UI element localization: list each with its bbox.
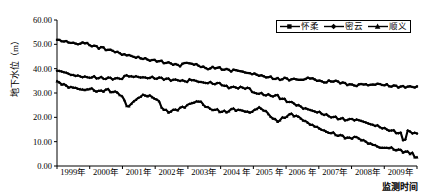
- marker-square: [228, 69, 230, 71]
- x-tick-label: 2002年: [159, 168, 185, 177]
- marker-square: [249, 72, 251, 74]
- marker-square: [195, 63, 197, 65]
- marker-square: [112, 50, 114, 52]
- marker-square: [376, 83, 378, 85]
- marker-square: [237, 70, 239, 72]
- marker-square: [397, 87, 399, 89]
- marker-square: [304, 78, 306, 80]
- marker-square: [61, 40, 63, 42]
- marker-square: [200, 66, 202, 68]
- marker-square: [193, 64, 195, 66]
- marker-square: [186, 62, 188, 64]
- marker-square: [337, 80, 339, 82]
- marker-square: [381, 84, 383, 86]
- marker-square: [177, 64, 179, 66]
- marker-square: [414, 86, 416, 88]
- marker-square: [126, 54, 128, 56]
- marker-square: [160, 60, 162, 62]
- legend-label: 密云: [345, 22, 363, 31]
- x-tick-label: 2004 年: [223, 168, 251, 177]
- marker-square: [72, 42, 74, 44]
- marker-square: [314, 78, 316, 80]
- marker-square: [277, 77, 279, 79]
- marker-square: [390, 86, 392, 88]
- marker-square: [105, 49, 107, 51]
- y-tick-label: 50.00: [16, 40, 52, 49]
- marker-square: [151, 59, 153, 61]
- legend-label: 怀柔: [301, 22, 319, 31]
- legend-label: 顺义: [389, 22, 407, 31]
- marker-square: [77, 43, 79, 45]
- marker-square: [232, 69, 234, 71]
- legend-marker-triangle-icon: [368, 22, 388, 31]
- marker-square: [251, 73, 253, 75]
- marker-square: [383, 84, 385, 86]
- marker-square: [356, 85, 358, 87]
- marker-square: [88, 44, 90, 46]
- marker-square: [393, 84, 395, 86]
- marker-square: [353, 84, 355, 86]
- marker-square: [79, 43, 81, 45]
- marker-square: [163, 62, 165, 64]
- y-tick-label: 40.00: [16, 65, 52, 74]
- marker-square: [116, 51, 118, 53]
- marker-square: [86, 42, 88, 44]
- legend-marker-square-icon: [280, 22, 300, 31]
- chart-legend: 怀柔密云顺义: [276, 20, 411, 33]
- marker-square: [302, 79, 304, 81]
- marker-square: [202, 66, 204, 68]
- marker-square: [65, 40, 67, 42]
- marker-square: [374, 84, 376, 86]
- marker-square: [297, 79, 299, 81]
- marker-square: [244, 71, 246, 73]
- marker-square: [311, 77, 313, 79]
- marker-square: [328, 79, 330, 81]
- marker-square: [191, 63, 193, 65]
- marker-square: [230, 70, 232, 72]
- marker-square: [179, 65, 181, 67]
- marker-square: [318, 80, 320, 82]
- marker-square: [367, 84, 369, 86]
- marker-square: [135, 57, 137, 59]
- marker-square: [181, 63, 183, 65]
- x-tick-label: 2008年: [355, 168, 381, 177]
- x-tick-label: 2003年: [191, 168, 217, 177]
- marker-square: [293, 78, 295, 80]
- marker-square: [316, 80, 318, 82]
- marker-square: [209, 67, 211, 69]
- x-axis-title: 监测时间: [382, 180, 418, 193]
- marker-square: [362, 83, 364, 85]
- marker-square: [158, 60, 160, 62]
- marker-square: [100, 46, 102, 48]
- marker-square: [369, 84, 371, 86]
- y-tick-label: 10.00: [16, 138, 52, 147]
- marker-square: [344, 82, 346, 84]
- marker-square: [349, 83, 351, 85]
- legend-item-密云[interactable]: 密云: [324, 22, 363, 31]
- marker-square: [123, 53, 125, 55]
- marker-square: [93, 45, 95, 47]
- marker-square: [107, 49, 109, 51]
- marker-square: [290, 78, 292, 80]
- series-密云: [56, 69, 419, 142]
- marker-square: [400, 85, 402, 87]
- marker-square: [207, 68, 209, 70]
- x-tick-label: 1999年: [60, 168, 86, 177]
- marker-square: [346, 84, 348, 86]
- marker-square: [323, 81, 325, 83]
- marker-square: [288, 79, 290, 81]
- marker-square: [137, 56, 139, 58]
- series-顺义: [56, 80, 419, 159]
- marker-square: [330, 80, 332, 82]
- marker-square: [133, 56, 135, 58]
- marker-square: [70, 42, 72, 44]
- legend-item-怀柔[interactable]: 怀柔: [280, 22, 319, 31]
- legend-item-顺义[interactable]: 顺义: [368, 22, 407, 31]
- marker-square: [260, 74, 262, 76]
- marker-square: [218, 66, 220, 68]
- x-tick-label: 2007年: [322, 168, 348, 177]
- marker-square: [167, 61, 169, 63]
- x-tick-label: 2000年: [93, 168, 119, 177]
- marker-square: [172, 64, 174, 66]
- marker-square: [81, 41, 83, 43]
